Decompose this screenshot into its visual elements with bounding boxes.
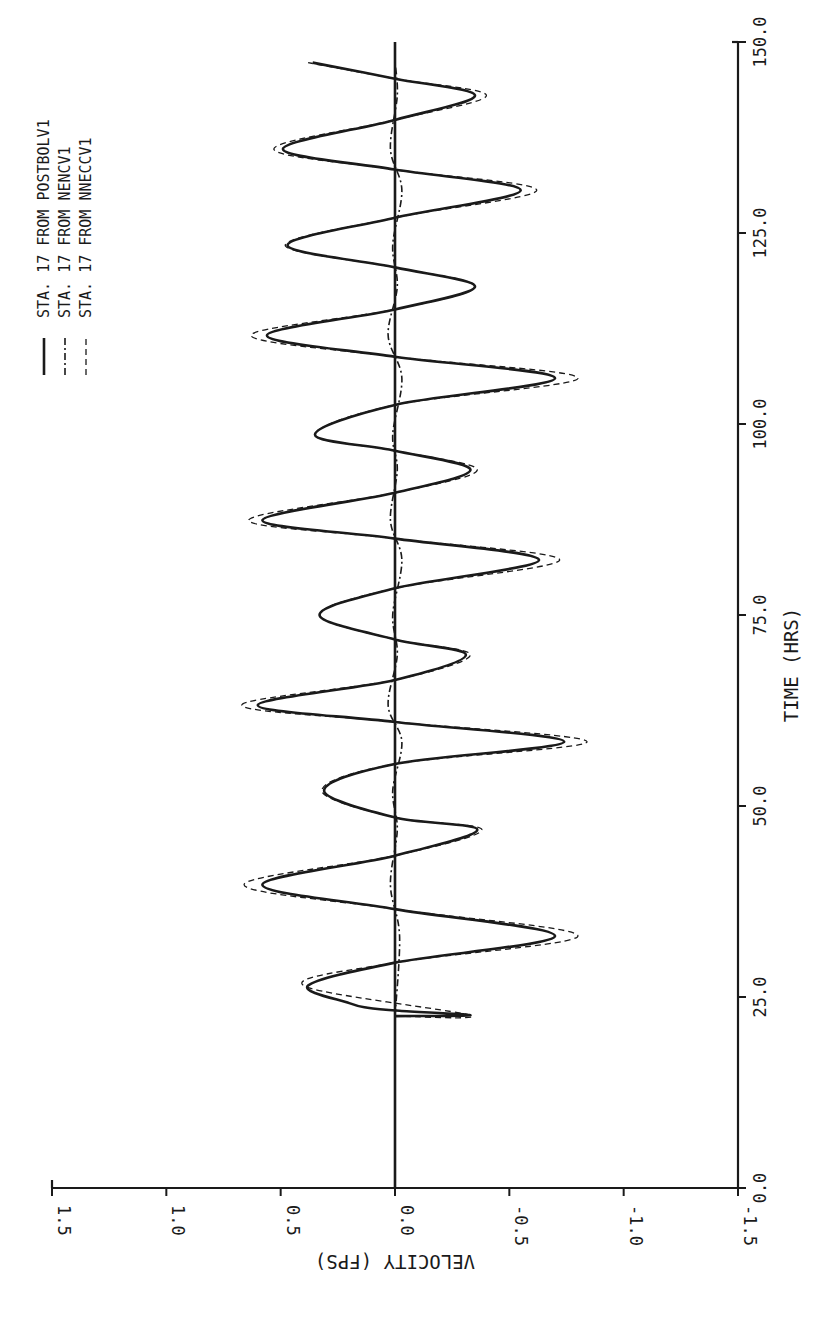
time-tick-label: 75.0 (750, 595, 770, 636)
velocity-axis-label: VELOCITY (FPS) (315, 1251, 475, 1273)
velocity-tick-label: -0.5 (511, 1205, 531, 1246)
time-tick-label: 50.0 (750, 786, 770, 827)
velocity-tick-label: 1.5 (54, 1205, 74, 1236)
data-series (242, 63, 587, 1018)
legend-label: STA. 17 FROM NENCV1 (56, 146, 74, 318)
series-line-solid (258, 63, 564, 1016)
time-ticks: 0.025.050.075.0100.0125.0150.0 (738, 16, 770, 1203)
time-tick-label: 25.0 (750, 977, 770, 1018)
legend: STA. 17 FROM POSTBOLV1STA. 17 FROM NENCV… (35, 119, 95, 375)
velocity-ticks: 1.51.00.50.0-0.5-1.0-1.5 (52, 1188, 760, 1246)
time-tick-label: 150.0 (750, 16, 770, 67)
time-tick-label: 0.0 (750, 1173, 770, 1204)
legend-label: STA. 17 FROM NNECCV1 (77, 137, 95, 318)
time-tick-label: 125.0 (750, 207, 770, 258)
velocity-tick-label: -1.5 (740, 1205, 760, 1246)
velocity-tick-label: 0.0 (397, 1205, 417, 1236)
velocity-time-chart: 1.51.00.50.0-0.5-1.0-1.5 0.025.050.075.0… (0, 0, 832, 1332)
velocity-tick-label: -1.0 (626, 1205, 646, 1246)
velocity-tick-label: 1.0 (168, 1205, 188, 1236)
time-tick-label: 100.0 (750, 398, 770, 449)
legend-label: STA. 17 FROM POSTBOLV1 (35, 119, 53, 318)
velocity-tick-label: 0.5 (283, 1205, 303, 1236)
time-axis-label: TIME (HRS) (780, 608, 802, 722)
